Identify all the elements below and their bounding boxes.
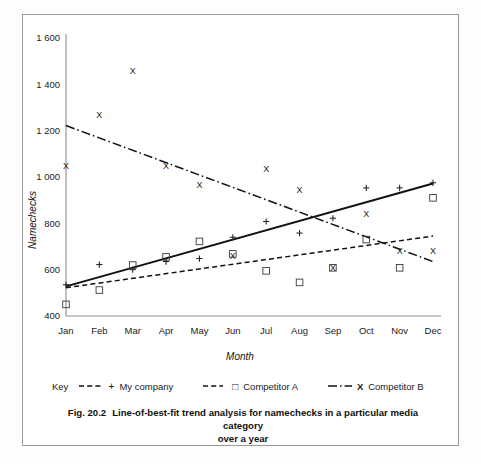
trend-line-competitor-b bbox=[66, 126, 433, 262]
my-company-swatch bbox=[79, 381, 105, 391]
competitor-a-swatch bbox=[203, 381, 229, 391]
namechecks-scatter-chart: Namechecks 4006008001 0001 2001 4001 600… bbox=[0, 0, 481, 464]
data-point-competitor-b: X bbox=[196, 180, 202, 190]
figure-caption: Fig. 20.2Line-of-best-fit trend analysis… bbox=[48, 406, 438, 445]
y-axis-tick-label: 1 000 bbox=[36, 171, 60, 182]
y-axis-tick-label: 800 bbox=[44, 218, 60, 229]
x-axis-tick-label: Jun bbox=[225, 325, 240, 336]
data-point-competitor-a bbox=[430, 195, 437, 202]
data-point-my-company bbox=[96, 261, 102, 267]
data-point-my-company bbox=[397, 185, 403, 191]
y-axis-tick-label: 1 600 bbox=[36, 32, 60, 43]
data-point-my-company bbox=[196, 255, 202, 261]
data-point-my-company bbox=[363, 185, 369, 191]
data-point-competitor-a bbox=[263, 268, 270, 275]
data-point-competitor-b: X bbox=[96, 110, 102, 120]
data-point-competitor-b: X bbox=[363, 209, 369, 219]
legend-label-my-company: My company bbox=[119, 381, 173, 392]
legend-item-competitor-a[interactable]: □ Competitor A bbox=[203, 381, 298, 392]
competitor-b-swatch bbox=[328, 381, 354, 391]
y-axis-tick-label: 600 bbox=[44, 264, 60, 275]
plus-marker-icon: + bbox=[106, 381, 116, 392]
x-axis-tick-label: Oct bbox=[359, 325, 374, 336]
legend-label-competitor-a: Competitor A bbox=[243, 381, 298, 392]
trend-line-competitor-a bbox=[66, 236, 433, 288]
data-point-competitor-b: X bbox=[297, 185, 303, 195]
x-axis-tick-label: Jan bbox=[58, 325, 73, 336]
data-point-competitor-a bbox=[96, 287, 103, 294]
y-axis-title: Namechecks bbox=[27, 191, 38, 249]
legend-item-competitor-b[interactable]: X Competitor B bbox=[328, 381, 423, 392]
data-point-competitor-b: X bbox=[163, 161, 169, 171]
x-axis-ticks: JanFebMarAprMayJunJulAugSepOctNovDec bbox=[58, 325, 441, 336]
data-point-competitor-a bbox=[296, 279, 303, 286]
x-axis-tick-label: Aug bbox=[291, 325, 308, 336]
trend-lines bbox=[66, 126, 433, 288]
legend-item-my-company[interactable]: + My company bbox=[79, 381, 173, 392]
x-marker-icon: X bbox=[355, 381, 365, 392]
data-point-competitor-a bbox=[196, 238, 203, 245]
data-point-competitor-a bbox=[396, 265, 403, 272]
data-point-competitor-b: X bbox=[430, 246, 436, 256]
data-point-my-company bbox=[330, 215, 336, 221]
chart-container: Namechecks 4006008001 0001 2001 4001 600… bbox=[0, 0, 481, 464]
trend-line-my-company bbox=[66, 183, 433, 286]
x-axis-tick-label: May bbox=[190, 325, 208, 336]
data-point-competitor-b: X bbox=[263, 164, 269, 174]
data-point-my-company bbox=[263, 218, 269, 224]
y-axis-tick-label: 400 bbox=[44, 310, 60, 321]
y-axis-tick-label: 1 400 bbox=[36, 79, 60, 90]
legend-key-label: Key bbox=[52, 381, 68, 392]
square-marker-icon: □ bbox=[230, 381, 240, 392]
data-point-competitor-b: X bbox=[397, 246, 403, 256]
x-axis-tick-label: Apr bbox=[159, 325, 174, 336]
figure-number: Fig. 20.2 bbox=[68, 407, 106, 418]
data-point-competitor-b: X bbox=[130, 66, 136, 76]
figure-caption-line1: Line-of-best-fit trend analysis for name… bbox=[112, 407, 418, 431]
x-axis-tick-label: Nov bbox=[391, 325, 408, 336]
figure-caption-line2: over a year bbox=[218, 433, 269, 444]
figure-page: Namechecks 4006008001 0001 2001 4001 600… bbox=[0, 0, 481, 464]
legend-label-competitor-b: Competitor B bbox=[368, 381, 423, 392]
x-axis-tick-label: Jul bbox=[260, 325, 272, 336]
x-axis-tick-label: Dec bbox=[425, 325, 442, 336]
x-axis-tick-label: Mar bbox=[125, 325, 141, 336]
x-axis-tick-label: Feb bbox=[91, 325, 107, 336]
data-point-competitor-b: X bbox=[230, 251, 236, 261]
data-point-competitor-b: X bbox=[63, 161, 69, 171]
x-axis-title: Month bbox=[226, 351, 254, 362]
data-point-competitor-b: X bbox=[330, 263, 336, 273]
data-point-my-company bbox=[296, 230, 302, 236]
x-axis-tick-label: Sep bbox=[324, 325, 341, 336]
y-axis-ticks: 4006008001 0001 2001 4001 600 bbox=[36, 32, 60, 321]
y-axis-tick-label: 1 200 bbox=[36, 125, 60, 136]
chart-legend: Key + My company □ Competitor A X Compet… bbox=[52, 378, 437, 394]
